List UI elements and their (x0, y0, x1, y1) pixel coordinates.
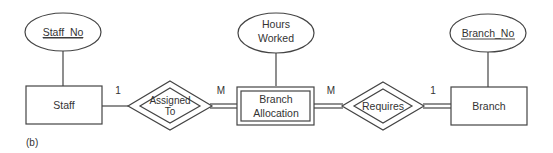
cardinality-branch: 1 (430, 85, 436, 96)
branch-label: Branch (259, 93, 292, 105)
requires-label: Requires (362, 100, 404, 112)
cardinality-alloc-left: M (217, 85, 225, 96)
entity-staff: Staff (26, 86, 102, 124)
to-label: To (165, 106, 176, 117)
allocation-label: Allocation (253, 107, 299, 119)
attribute-hours-worked: Hours Worked (238, 13, 314, 53)
branch-no-label: Branch_No (462, 27, 515, 39)
figure-label: (b) (26, 137, 38, 148)
assigned-label: Assigned (149, 95, 190, 106)
staff-no-label: Staff_No (43, 26, 84, 38)
attribute-staff-no: Staff_No (25, 13, 101, 51)
entity-branch: Branch (451, 87, 527, 125)
cardinality-alloc-right: M (327, 85, 335, 96)
er-diagram: Staff_No Hours Worked Branch_No Staff Br… (0, 0, 553, 153)
branch-entity-label: Branch (472, 100, 505, 112)
entity-branch-allocation: Branch Allocation (237, 87, 314, 125)
attribute-branch-no: Branch_No (450, 14, 526, 52)
cardinality-staff: 1 (115, 85, 121, 96)
staff-label: Staff (53, 99, 74, 111)
relationship-requires: Requires (342, 82, 424, 130)
relationship-assigned-to: Assigned To (128, 81, 212, 130)
worked-label: Worked (258, 32, 294, 44)
hours-label: Hours (262, 18, 290, 30)
